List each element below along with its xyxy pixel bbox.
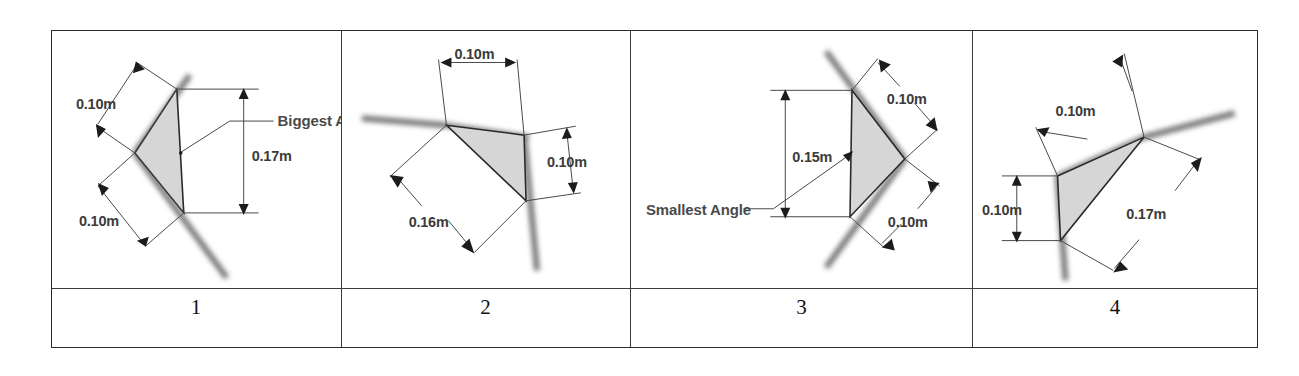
figure-table: 0.10m 0.10m	[51, 30, 1258, 348]
callout-label-3: Smallest Angle	[646, 201, 751, 218]
arrow-head-3d	[926, 117, 938, 131]
dimension-label-2a: 0.10m	[454, 46, 494, 62]
figure-row: 0.10m 0.10m	[52, 31, 1257, 288]
dimension-label-1a: 0.10m	[76, 96, 116, 112]
arrow-head-2b	[505, 58, 516, 68]
dimension-label-4b: 0.10m	[982, 202, 1022, 218]
arrow-head-2d	[567, 182, 577, 194]
shaded-triangle-4	[1058, 137, 1145, 240]
figure-diagram-4: 0.10m 0.10m	[973, 31, 1257, 288]
arrow-head-1c	[98, 183, 109, 196]
dimension-label-3b: 0.10m	[887, 91, 927, 107]
arrow-head-2f	[461, 239, 474, 254]
dimension-label-3a: 0.15m	[792, 149, 832, 165]
number-row: 1 2 3 4	[52, 288, 1257, 347]
arrow-head-4e	[1191, 157, 1202, 172]
number-label-4: 4	[973, 289, 1257, 320]
arrow-head-3e	[928, 181, 940, 193]
arrow-head-3f	[882, 239, 895, 251]
figure-cell-4: 0.10m 0.10m	[972, 31, 1257, 288]
arrow-head-3a	[780, 89, 790, 100]
page-root: 0.10m 0.10m	[0, 0, 1299, 376]
dimension-label-2b: 0.10m	[546, 154, 586, 170]
dimension-label-1c: 0.17m	[252, 148, 292, 164]
figure-diagram-2: 0.10m 0.10m	[342, 31, 631, 288]
arrow-head-2e	[389, 175, 403, 188]
dimension-label-2c: 0.16m	[408, 214, 448, 230]
dimension-label-4c: 0.17m	[1127, 206, 1167, 222]
figure-cell-1: 0.10m 0.10m	[52, 31, 341, 288]
callout-label-1: Biggest Angle	[278, 112, 341, 129]
dimension-vertical-1	[177, 89, 259, 213]
arrow-head-4c	[1012, 175, 1022, 186]
number-label-3: 3	[631, 289, 972, 320]
arrow-head-1e	[239, 88, 249, 99]
figure-diagram-3: 0.15m 0.10m	[631, 31, 972, 288]
arrow-head-2c	[561, 127, 571, 139]
dimension-label-1b: 0.10m	[79, 213, 119, 229]
arrow-head-2a	[440, 58, 451, 68]
callout-anchor-dot-1	[179, 151, 183, 155]
shaded-triangle-1	[135, 89, 184, 213]
number-cell-4: 4	[972, 289, 1257, 347]
number-cell-1: 1	[52, 289, 341, 347]
number-cell-3: 3	[630, 289, 972, 347]
figure-diagram-1: 0.10m 0.10m	[52, 31, 341, 288]
figure-cell-2: 0.10m 0.10m	[341, 31, 631, 288]
dimension-label-3c: 0.10m	[888, 214, 928, 230]
figure-cell-3: 0.15m 0.10m	[630, 31, 972, 288]
arrow-head-4b	[1113, 55, 1124, 68]
arrow-head-1b	[96, 124, 106, 138]
shaded-triangle-2	[446, 125, 526, 201]
number-cell-2: 2	[341, 289, 631, 347]
dimension-label-4a: 0.10m	[1056, 103, 1096, 119]
number-label-1: 1	[52, 289, 341, 320]
number-label-2: 2	[342, 289, 631, 320]
